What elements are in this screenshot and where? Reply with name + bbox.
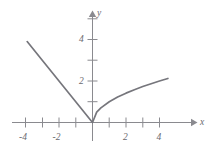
x-tick-label--4: -4 bbox=[19, 133, 27, 143]
x-tick-label--2: -2 bbox=[53, 133, 61, 143]
y-tick-label-2: 2 bbox=[79, 77, 84, 87]
y-tick-label-4: 4 bbox=[79, 35, 84, 45]
chart-plot-area bbox=[0, 0, 212, 154]
function-curve bbox=[27, 42, 168, 123]
x-axis-label: x bbox=[200, 118, 204, 128]
y-axis-label: y bbox=[97, 9, 101, 19]
y-axis-arrow-icon bbox=[89, 11, 96, 18]
x-axis-arrow-icon bbox=[191, 119, 198, 126]
chart-figure: -4 -2 2 4 2 4 x y bbox=[0, 0, 212, 154]
x-tick-label-2: 2 bbox=[123, 133, 128, 143]
x-tick-label-4: 4 bbox=[157, 133, 162, 143]
